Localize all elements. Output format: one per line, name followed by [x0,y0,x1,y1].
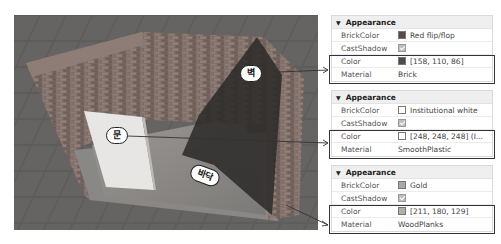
door-label: 문 [106,127,128,144]
highlight-box-door [329,130,495,159]
property-row-brickcolor[interactable]: BrickColor Gold [332,179,492,192]
property-value: Red flip/flop [410,31,455,40]
property-value: Gold [410,181,427,190]
property-key: BrickColor [332,106,398,115]
color-swatch-icon [398,31,406,39]
property-row-castshadow[interactable]: CastShadow [332,117,492,130]
property-row-brickcolor[interactable]: BrickColor Red flip/flop [332,29,492,42]
wall-label: 벽 [240,65,262,82]
property-value: Institutional white [410,106,478,115]
section-title: Appearance [346,18,396,27]
room-render [14,15,318,230]
highlight-box-wall [329,55,495,84]
section-title: Appearance [346,168,396,177]
appearance-section-header[interactable]: ▼ Appearance [332,91,492,104]
viewport-scene: 벽 문 바닥 [14,15,318,230]
property-row-brickcolor[interactable]: BrickColor Institutional white [332,104,492,117]
collapse-triangle-icon[interactable]: ▼ [336,19,341,26]
castshadow-checkbox[interactable] [398,194,406,202]
collapse-triangle-icon[interactable]: ▼ [336,94,341,101]
property-row-castshadow[interactable]: CastShadow [332,192,492,205]
section-title: Appearance [346,93,396,102]
property-key: CastShadow [332,194,398,203]
castshadow-checkbox[interactable] [398,44,406,52]
property-key: BrickColor [332,31,398,40]
property-row-castshadow[interactable]: CastShadow [332,42,492,55]
property-key: CastShadow [332,119,398,128]
appearance-section-header[interactable]: ▼ Appearance [332,166,492,179]
castshadow-checkbox[interactable] [398,119,406,127]
appearance-section-header[interactable]: ▼ Appearance [332,16,492,29]
property-key: CastShadow [332,44,398,53]
property-key: BrickColor [332,181,398,190]
collapse-triangle-icon[interactable]: ▼ [336,169,341,176]
highlight-box-floor [329,205,495,234]
color-swatch-icon [398,106,406,114]
color-swatch-icon [398,181,406,189]
